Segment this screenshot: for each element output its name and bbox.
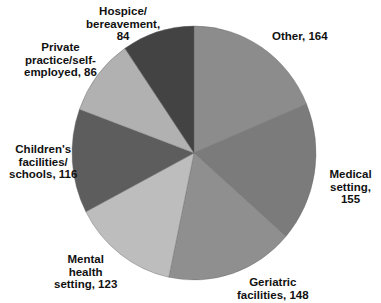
- label-other: Other, 164: [272, 30, 328, 43]
- label-medical-setting: Medical setting, 155: [320, 168, 381, 206]
- label-mental-health-setting: Mental health setting, 123: [54, 253, 117, 291]
- label-childrens-facilities: Children's facilities/ schools, 116: [9, 143, 77, 181]
- label-geriatric-facilities: Geriatric facilities, 148: [237, 276, 309, 301]
- label-private-practice: Private practice/self- employed, 86: [24, 41, 97, 79]
- label-hospice-bereavement: Hospice/ bereavement, 84: [86, 5, 160, 43]
